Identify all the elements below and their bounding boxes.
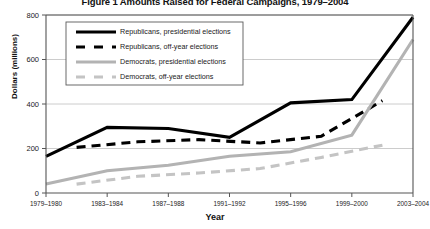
x-tick-label: 1995–1996 <box>275 200 307 207</box>
y-tick-label: 200 <box>26 144 39 153</box>
legend-label-rep_pres: Republicans, presidential elections <box>120 27 231 36</box>
y-tick-label: 400 <box>26 100 39 109</box>
legend-label-dem_pres: Democrats, presidential elections <box>120 57 226 66</box>
legend: Republicans, presidential electionsRepub… <box>66 22 243 85</box>
legend-label-rep_off: Republicans, off-year elections <box>120 42 219 51</box>
chart-plot-svg: 0200400600800 1979–19801983–19841987–198… <box>0 0 430 229</box>
y-tick-label: 600 <box>26 55 39 64</box>
chart-container: Figure 1 Amounts Raised for Federal Camp… <box>0 0 430 229</box>
y-tick-label: 0 <box>35 189 39 198</box>
x-tick-label: 1987–1988 <box>152 200 184 207</box>
x-tick-label: 2003–2004 <box>397 200 429 207</box>
x-tick-label: 1979–1980 <box>30 200 62 207</box>
y-axis-ticks: 0200400600800 <box>26 11 46 198</box>
x-tick-label: 1991–1992 <box>214 200 246 207</box>
x-tick-label: 1983–1984 <box>91 200 123 207</box>
y-tick-label: 800 <box>26 11 39 20</box>
legend-label-dem_off: Democrats, off-year elections <box>120 72 214 81</box>
x-tick-label: 1999–2000 <box>336 200 368 207</box>
series-line-dem_off <box>77 145 383 184</box>
x-axis-ticks: 1979–19801983–19841987–19881991–19921995… <box>30 193 429 207</box>
